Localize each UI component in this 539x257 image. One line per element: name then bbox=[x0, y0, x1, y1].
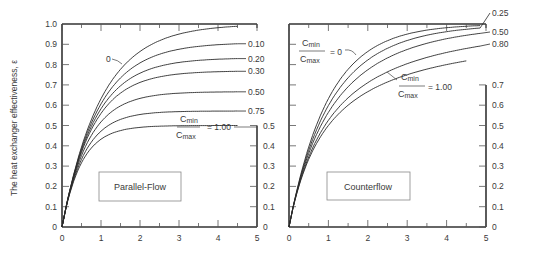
parallel-annotations: 0 Cmin Cmax = 1.00 bbox=[106, 54, 257, 140]
x-tick-label: 2 bbox=[138, 233, 143, 243]
counterflow-label: Counterflow bbox=[344, 182, 393, 192]
secondary-y-tick-label: 0 bbox=[263, 222, 268, 232]
secondary-y-tick-label: 0.4 bbox=[263, 141, 275, 151]
y-tick-label: 0.9 bbox=[45, 39, 57, 49]
parallel-flow-plot: 00.10.20.30.40.501234500.10.20.30.40.50.… bbox=[45, 19, 275, 243]
parallel-flow-label: Parallel-Flow bbox=[114, 182, 167, 192]
cmax-label-right2: Cmax bbox=[398, 89, 418, 99]
secondary-y-tick-label: 0.4 bbox=[492, 141, 504, 151]
secondary-y-tick-label: 0.1 bbox=[492, 202, 504, 212]
curve-label: 0.50 bbox=[492, 27, 509, 37]
x-tick-label: 1 bbox=[326, 233, 331, 243]
y-tick-label: 0.3 bbox=[45, 161, 57, 171]
y-tick-label: 0.1 bbox=[45, 202, 57, 212]
curve-label: 0.50 bbox=[248, 87, 265, 97]
y-tick-label: 0.2 bbox=[45, 181, 57, 191]
eq-one-label: = 1.00 bbox=[207, 122, 231, 132]
y-tick-label: 0.5 bbox=[45, 121, 57, 131]
secondary-y-tick-label: 0.6 bbox=[492, 100, 504, 110]
y-tick-label: 0.6 bbox=[45, 100, 57, 110]
parallel-flow-legend-box: Parallel-Flow bbox=[99, 172, 181, 201]
x-tick-label: 2 bbox=[365, 233, 370, 243]
cmin-label-right: Cmin bbox=[302, 38, 320, 48]
x-tick-label: 3 bbox=[177, 233, 182, 243]
y-axis-label: The heat exchanger effectiveness, ε bbox=[9, 60, 19, 196]
series-curve-0.3 bbox=[62, 71, 238, 227]
y-tick-label: 0.4 bbox=[45, 141, 57, 151]
secondary-y-tick-label: 0.2 bbox=[492, 181, 504, 191]
x-tick-label: 4 bbox=[216, 233, 221, 243]
eq-one-label-right: = 1.00 bbox=[428, 82, 452, 92]
cmin-label: Cmin bbox=[180, 114, 198, 124]
x-tick-label: 3 bbox=[405, 233, 410, 243]
secondary-y-tick-label: 0.3 bbox=[492, 161, 504, 171]
curve-label: 0.10 bbox=[248, 39, 265, 49]
x-tick-label: 5 bbox=[484, 233, 489, 243]
x-tick-label: 5 bbox=[255, 233, 260, 243]
counterflow-plot: 00.10.20.30.40.50.60.70123450.250.500.80 bbox=[287, 8, 509, 243]
curve-label: 0.80 bbox=[492, 39, 509, 49]
secondary-y-tick-label: 0.5 bbox=[492, 121, 504, 131]
series-curve-0.5 bbox=[62, 92, 238, 227]
y-tick-label: 0.8 bbox=[45, 60, 57, 70]
cmax-label: Cmax bbox=[176, 130, 196, 140]
series-curve-0.2 bbox=[62, 59, 238, 227]
secondary-y-tick-label: 0.5 bbox=[263, 121, 275, 131]
x-tick-label: 0 bbox=[60, 233, 65, 243]
curve-label: 0.20 bbox=[248, 54, 265, 64]
x-tick-label: 0 bbox=[287, 233, 292, 243]
curve-label: 0.25 bbox=[492, 8, 509, 18]
counterflow-legend-box: Counterflow bbox=[327, 172, 410, 200]
secondary-y-tick-label: 0.7 bbox=[492, 80, 504, 90]
curve-label: 0.30 bbox=[248, 66, 265, 76]
secondary-y-tick-label: 0.2 bbox=[263, 181, 275, 191]
curve-label: 0.75 bbox=[248, 106, 265, 116]
secondary-y-tick-label: 0.3 bbox=[263, 161, 275, 171]
y-tick-label: 0.7 bbox=[45, 80, 57, 90]
y-tick-label: 1.0 bbox=[45, 19, 57, 29]
secondary-y-tick-label: 0.1 bbox=[263, 202, 275, 212]
secondary-y-tick-label: 0 bbox=[492, 222, 497, 232]
x-tick-label: 1 bbox=[99, 233, 104, 243]
y-tick-label: 0 bbox=[52, 222, 57, 232]
eq-zero-label: = 0 bbox=[330, 47, 342, 57]
curve-label-zero: 0 bbox=[106, 54, 111, 64]
cmax-label-right: Cmax bbox=[300, 54, 320, 64]
effectiveness-chart: The heat exchanger effectiveness, ε 00.1… bbox=[0, 0, 539, 257]
x-tick-label: 4 bbox=[444, 233, 449, 243]
